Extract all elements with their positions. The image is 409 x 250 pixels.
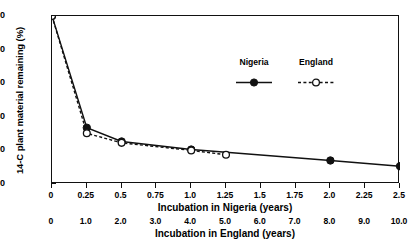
x-tick-mark xyxy=(364,183,365,188)
x-tick-mark xyxy=(51,183,52,188)
legend-swatch-england xyxy=(288,74,344,85)
plot-lines xyxy=(52,16,400,184)
legend-label-nigeria: Nigeria xyxy=(226,57,282,67)
x-axis-title-nigeria: Incubation in Nigeria (years) xyxy=(51,202,399,213)
data-point-nigeria xyxy=(327,157,334,164)
y-tick-label: 60 xyxy=(0,77,5,87)
legend-item-england: England xyxy=(288,57,344,85)
x-axis2-tick-label: 10.0 xyxy=(379,216,409,226)
x-tick-mark xyxy=(225,183,226,188)
x-tick-mark xyxy=(399,183,400,188)
series-line-nigeria xyxy=(52,16,400,166)
x-tick-mark xyxy=(86,183,87,188)
chart-figure: 14-C plant material remaining (%) 020406… xyxy=(0,0,409,250)
y-tick-label: 40 xyxy=(0,111,5,121)
y-tick-label: 0 xyxy=(0,178,5,188)
x-tick-mark xyxy=(260,183,261,188)
x-tick-label: 2.5 xyxy=(379,190,409,200)
data-point-england xyxy=(223,151,230,158)
y-axis-title: 14-C plant material remaining (%) xyxy=(14,11,25,191)
data-point-england xyxy=(83,130,90,137)
x-tick-mark xyxy=(121,183,122,188)
x-tick-mark xyxy=(155,183,156,188)
y-tick-label: 80 xyxy=(0,44,5,54)
series-line-england xyxy=(52,16,226,155)
legend-label-england: England xyxy=(288,57,344,67)
data-point-england xyxy=(118,139,125,146)
legend-swatch-nigeria xyxy=(226,74,282,85)
y-tick-label: 100 xyxy=(0,10,5,20)
data-point-england xyxy=(188,147,195,154)
y-tick-label: 20 xyxy=(0,144,5,154)
x-tick-mark xyxy=(329,183,330,188)
plot-area xyxy=(51,15,399,183)
legend-item-nigeria: Nigeria xyxy=(226,57,282,85)
x-tick-mark xyxy=(295,183,296,188)
data-point-nigeria xyxy=(396,162,400,169)
x-axis-title-england: Incubation in England (years) xyxy=(51,228,399,239)
x-tick-mark xyxy=(190,183,191,188)
chart-legend: Nigeria England xyxy=(226,57,346,87)
